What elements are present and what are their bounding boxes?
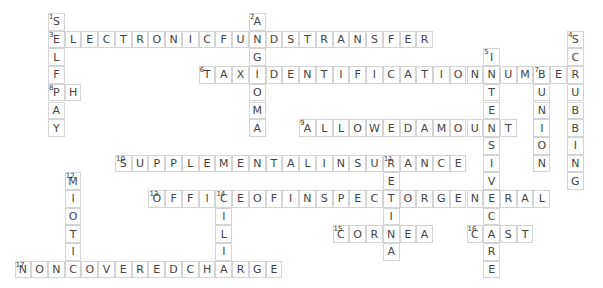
crossword-cell[interactable]: F: [349, 66, 366, 84]
crossword-cell[interactable]: S: [366, 31, 383, 49]
crossword-cell[interactable]: N17: [15, 261, 32, 279]
crossword-cell[interactable]: T: [316, 66, 333, 84]
crossword-cell[interactable]: R: [567, 66, 584, 84]
crossword-cell[interactable]: N: [165, 31, 182, 49]
crossword-cell[interactable]: M12: [65, 172, 82, 190]
crossword-cell[interactable]: O: [148, 31, 165, 49]
crossword-cell[interactable]: I: [182, 31, 199, 49]
crossword-cell[interactable]: O: [249, 190, 266, 208]
crossword-cell[interactable]: I: [215, 208, 232, 226]
crossword-cell[interactable]: R: [232, 261, 249, 279]
crossword-cell[interactable]: M: [215, 155, 232, 173]
crossword-cell[interactable]: M: [433, 119, 450, 137]
crossword-cell[interactable]: B7: [533, 66, 550, 84]
crossword-cell[interactable]: C: [383, 66, 400, 84]
crossword-cell[interactable]: I: [65, 190, 82, 208]
crossword-cell[interactable]: I: [199, 190, 216, 208]
crossword-cell[interactable]: G: [249, 48, 266, 66]
crossword-cell[interactable]: E: [383, 119, 400, 137]
crossword-cell[interactable]: C: [483, 208, 500, 226]
crossword-cell[interactable]: E: [483, 190, 500, 208]
crossword-cell[interactable]: F: [383, 31, 400, 49]
crossword-cell[interactable]: C: [65, 261, 82, 279]
crossword-cell[interactable]: N: [48, 261, 65, 279]
crossword-cell[interactable]: O: [81, 261, 98, 279]
crossword-cell[interactable]: P: [148, 155, 165, 173]
crossword-cell[interactable]: U: [132, 155, 149, 173]
crossword-cell[interactable]: V: [483, 172, 500, 190]
crossword-cell[interactable]: R: [483, 243, 500, 261]
crossword-cell[interactable]: O: [400, 190, 417, 208]
crossword-cell[interactable]: E: [400, 31, 417, 49]
crossword-cell[interactable]: S: [483, 137, 500, 155]
crossword-cell[interactable]: N: [383, 225, 400, 243]
crossword-cell[interactable]: I: [215, 243, 232, 261]
crossword-cell[interactable]: A: [215, 261, 232, 279]
crossword-cell[interactable]: I: [567, 137, 584, 155]
crossword-cell[interactable]: E: [232, 190, 249, 208]
crossword-cell[interactable]: A: [215, 66, 232, 84]
crossword-cell[interactable]: E: [483, 261, 500, 279]
crossword-cell[interactable]: C: [199, 31, 216, 49]
crossword-cell[interactable]: I: [366, 66, 383, 84]
crossword-cell[interactable]: N: [467, 190, 484, 208]
crossword-cell[interactable]: E: [450, 190, 467, 208]
crossword-cell[interactable]: R: [316, 31, 333, 49]
crossword-cell[interactable]: R: [132, 261, 149, 279]
crossword-cell[interactable]: I: [316, 155, 333, 173]
crossword-cell[interactable]: L: [65, 31, 82, 49]
crossword-cell[interactable]: N: [249, 31, 266, 49]
crossword-cell[interactable]: E: [282, 66, 299, 84]
crossword-cell[interactable]: F: [215, 31, 232, 49]
crossword-cell[interactable]: A: [249, 119, 266, 137]
crossword-cell[interactable]: N: [467, 66, 484, 84]
crossword-cell[interactable]: I: [65, 243, 82, 261]
crossword-cell[interactable]: I: [282, 190, 299, 208]
crossword-cell[interactable]: C: [567, 48, 584, 66]
crossword-cell[interactable]: D: [165, 261, 182, 279]
crossword-cell[interactable]: N: [567, 155, 584, 173]
crossword-cell[interactable]: D: [266, 31, 283, 49]
crossword-cell[interactable]: L: [48, 48, 65, 66]
crossword-cell[interactable]: E: [266, 261, 283, 279]
crossword-cell[interactable]: N: [249, 155, 266, 173]
crossword-cell[interactable]: L: [316, 119, 333, 137]
crossword-cell[interactable]: T: [299, 31, 316, 49]
crossword-cell[interactable]: A2: [249, 13, 266, 31]
crossword-cell[interactable]: O13: [148, 190, 165, 208]
crossword-cell[interactable]: I: [249, 66, 266, 84]
crossword-cell[interactable]: E: [148, 261, 165, 279]
crossword-cell[interactable]: N: [533, 155, 550, 173]
crossword-cell[interactable]: S10: [115, 155, 132, 173]
crossword-cell[interactable]: E: [115, 261, 132, 279]
crossword-cell[interactable]: E3: [48, 31, 65, 49]
crossword-cell[interactable]: C: [98, 31, 115, 49]
crossword-cell[interactable]: E: [400, 225, 417, 243]
crossword-cell[interactable]: T: [115, 31, 132, 49]
crossword-cell[interactable]: S1: [48, 13, 65, 31]
crossword-cell[interactable]: F: [48, 66, 65, 84]
crossword-cell[interactable]: E: [383, 172, 400, 190]
crossword-cell[interactable]: T6: [199, 66, 216, 84]
crossword-cell[interactable]: A: [383, 243, 400, 261]
crossword-cell[interactable]: G: [567, 172, 584, 190]
crossword-cell[interactable]: H: [199, 261, 216, 279]
crossword-cell[interactable]: L: [333, 119, 350, 137]
crossword-cell[interactable]: P: [333, 190, 350, 208]
crossword-cell[interactable]: N: [533, 102, 550, 120]
crossword-cell[interactable]: O: [450, 66, 467, 84]
crossword-cell[interactable]: B: [567, 119, 584, 137]
crossword-cell[interactable]: L: [182, 155, 199, 173]
crossword-cell[interactable]: X: [232, 66, 249, 84]
crossword-cell[interactable]: R: [132, 31, 149, 49]
crossword-cell[interactable]: O: [349, 119, 366, 137]
crossword-cell[interactable]: M: [517, 66, 534, 84]
crossword-cell[interactable]: U: [467, 119, 484, 137]
crossword-cell[interactable]: V: [98, 261, 115, 279]
crossword-cell[interactable]: A: [416, 119, 433, 137]
crossword-cell[interactable]: P: [165, 155, 182, 173]
crossword-cell[interactable]: I: [333, 66, 350, 84]
crossword-cell[interactable]: U: [232, 31, 249, 49]
crossword-cell[interactable]: N: [349, 31, 366, 49]
crossword-cell[interactable]: D: [266, 66, 283, 84]
